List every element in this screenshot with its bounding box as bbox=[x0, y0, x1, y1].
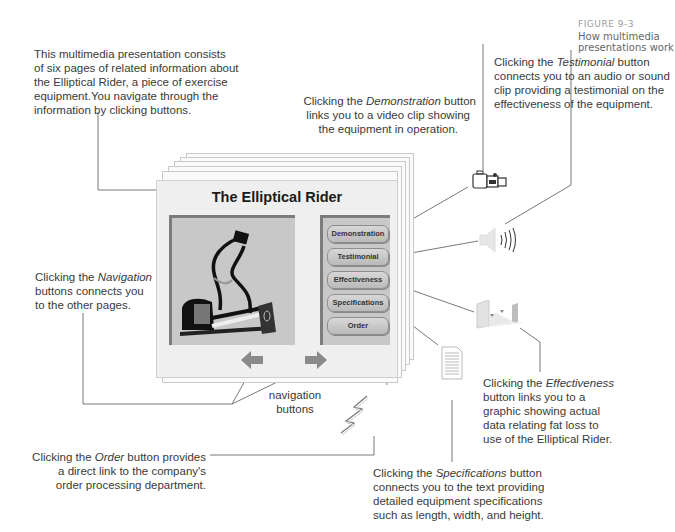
navigation-buttons-label: navigation buttons bbox=[265, 388, 325, 416]
callout-line: button links you to a bbox=[483, 390, 663, 404]
callout-emphasis: Demonstration bbox=[366, 95, 441, 107]
callout-text: Clicking the bbox=[483, 377, 546, 389]
testimonial-callout: Clicking the Testimonial button connects… bbox=[494, 55, 675, 111]
presentation-page: The Elliptical Rider Demonstration Testi… bbox=[156, 180, 398, 378]
elliptical-rider-image bbox=[172, 218, 295, 345]
specifications-button[interactable]: Specifications bbox=[327, 294, 389, 312]
speaker-icon bbox=[478, 225, 526, 255]
document-icon bbox=[441, 346, 463, 380]
effectiveness-callout: Clicking the Effectiveness button links … bbox=[483, 376, 663, 446]
callout-text: button bbox=[614, 56, 649, 68]
intro-line: of six pages of related information abou… bbox=[34, 61, 274, 75]
effectiveness-button[interactable]: Effectiveness bbox=[327, 271, 389, 289]
callout-line: clip providing a testimonial on the bbox=[494, 83, 675, 97]
callout-text: Clicking the bbox=[373, 467, 436, 479]
callout-text: button provides bbox=[124, 451, 206, 463]
figure-label: FIGURE 9-3 bbox=[578, 19, 634, 29]
callout-emphasis: Order bbox=[95, 451, 124, 463]
button-panel: Demonstration Testimonial Effectiveness … bbox=[320, 215, 390, 345]
callout-text: button bbox=[441, 95, 476, 107]
callout-line: such as length, width, and height. bbox=[373, 508, 573, 522]
intro-line: equipment.You navigate through the bbox=[34, 89, 274, 103]
callout-line: the equipment in operation. bbox=[246, 122, 476, 136]
next-page-arrow-icon[interactable] bbox=[305, 351, 327, 369]
testimonial-button[interactable]: Testimonial bbox=[327, 248, 389, 266]
callout-line: order processing department. bbox=[20, 478, 206, 492]
callout-emphasis: Effectiveness bbox=[546, 377, 614, 389]
callout-line: buttons connects you bbox=[35, 284, 175, 298]
intro-callout: This multimedia presentation consists of… bbox=[34, 47, 274, 117]
order-button[interactable]: Order bbox=[327, 317, 389, 335]
intro-line: the Elliptical Rider, a piece of exercis… bbox=[34, 75, 274, 89]
callout-emphasis: Testimonial bbox=[557, 56, 615, 68]
presentation-title: The Elliptical Rider bbox=[157, 189, 397, 205]
callout-text: Clicking the bbox=[494, 56, 557, 68]
callout-line: graphic showing actual bbox=[483, 404, 663, 418]
callout-text: button bbox=[507, 467, 542, 479]
intro-line: information by clicking buttons. bbox=[34, 103, 274, 117]
demonstration-button[interactable]: Demonstration bbox=[327, 225, 389, 243]
intro-line: This multimedia presentation consists bbox=[34, 47, 274, 61]
callout-emphasis: Specifications bbox=[436, 467, 507, 479]
label-line: navigation bbox=[265, 388, 325, 402]
callout-text: Clicking the bbox=[303, 95, 366, 107]
equipment-image-panel bbox=[169, 215, 295, 345]
order-callout: Clicking the Order button provides a dir… bbox=[20, 450, 206, 492]
callout-text: Clicking the bbox=[35, 271, 98, 283]
lightning-link-icon bbox=[340, 395, 370, 435]
callout-line: detailed equipment specifications bbox=[373, 494, 573, 508]
callout-line: connects you to the text providing bbox=[373, 480, 573, 494]
specifications-callout: Clicking the Specifications button conne… bbox=[373, 466, 573, 522]
callout-line: data relating fat loss to bbox=[483, 418, 663, 432]
callout-line: a direct link to the company's bbox=[20, 464, 206, 478]
navigation-callout: Clicking the Navigation buttons connects… bbox=[35, 270, 175, 312]
previous-page-arrow-icon[interactable] bbox=[241, 351, 263, 369]
callout-emphasis: Navigation bbox=[98, 271, 152, 283]
callout-line: links you to a video clip showing bbox=[246, 108, 476, 122]
callout-line: effectiveness of the equipment. bbox=[494, 97, 675, 111]
callout-line: use of the Elliptical Rider. bbox=[483, 432, 663, 446]
callout-line: connects you to an audio or sound bbox=[494, 69, 675, 83]
callout-text: Clicking the bbox=[32, 451, 95, 463]
figure-title: How multimedia presentations work bbox=[578, 31, 675, 53]
label-line: buttons bbox=[265, 402, 325, 416]
demonstration-callout: Clicking the Demonstration button links … bbox=[246, 94, 476, 136]
chart-graphic-icon bbox=[476, 300, 526, 330]
video-camera-icon bbox=[472, 170, 508, 192]
callout-line: to the other pages. bbox=[35, 298, 175, 312]
